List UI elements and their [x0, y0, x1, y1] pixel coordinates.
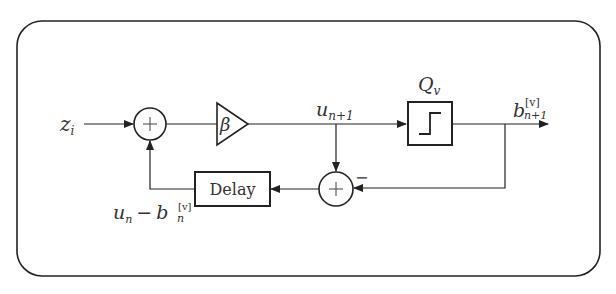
signal-label: un+1 [316, 98, 354, 123]
output-superscript: [v] [525, 96, 540, 109]
feedback-label: un−b [113, 201, 168, 226]
summing-junction-1 [134, 108, 166, 140]
block-diagram: zi β un+1 Qv b [v] n+1 − Delay [0, 0, 616, 294]
feedback-subscript: n [177, 212, 184, 225]
quantizer-block [408, 102, 452, 145]
summing-junction-2 [319, 172, 353, 206]
feedback-path-delay [150, 141, 195, 189]
delay-block: Delay [195, 172, 270, 206]
gain-block: β [217, 103, 248, 145]
diagram-frame [17, 21, 600, 276]
quantizer-label: Qv [418, 73, 441, 98]
delay-label: Delay [210, 180, 256, 199]
minus-sign: − [355, 168, 368, 187]
input-label: zi [59, 112, 75, 138]
gain-label: β [219, 114, 230, 135]
feedback-superscript: [v] [178, 201, 192, 212]
output-subscript: n+1 [524, 109, 547, 122]
